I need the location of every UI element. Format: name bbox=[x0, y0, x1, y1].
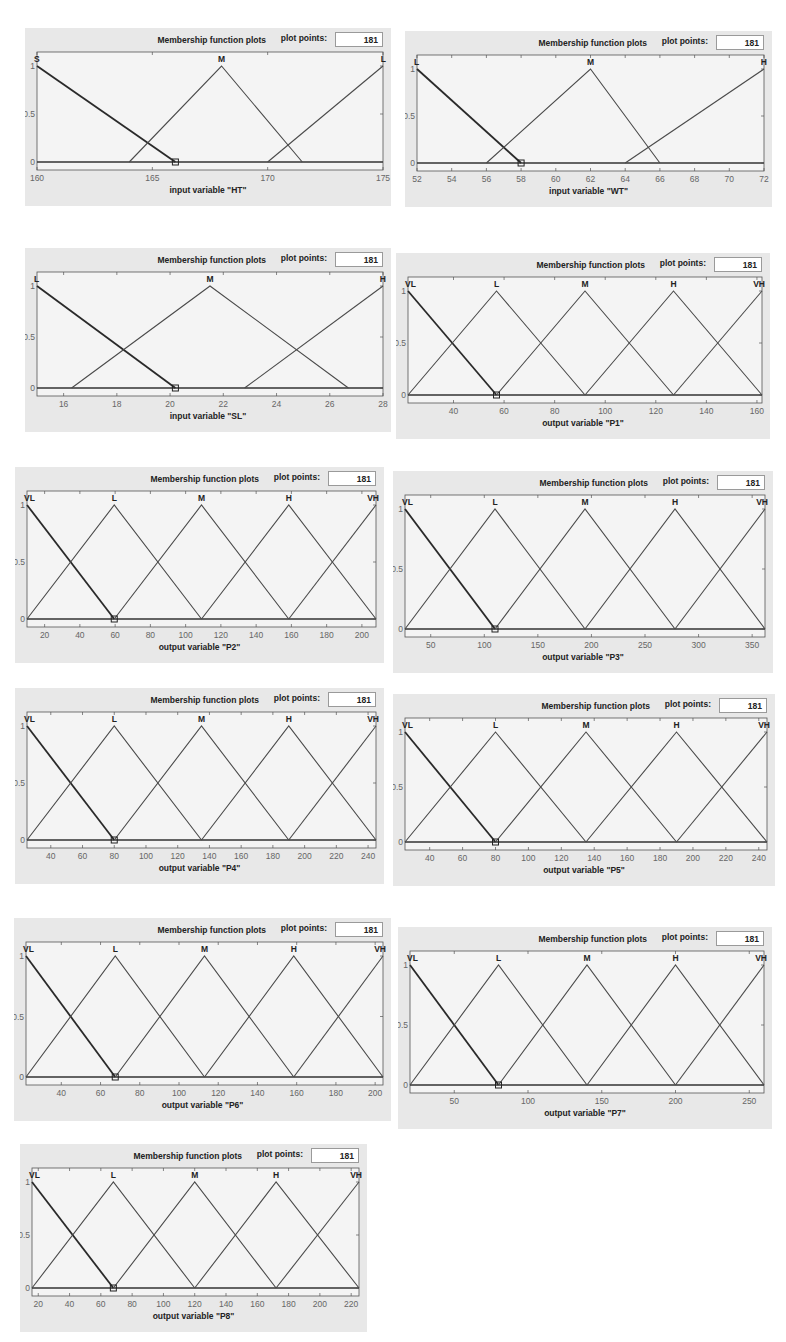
mf-label: VH bbox=[367, 714, 379, 724]
y-tick-label: 0.5 bbox=[15, 778, 25, 788]
mf-label: L bbox=[492, 497, 497, 507]
x-tick-label: 40 bbox=[65, 1299, 75, 1309]
x-tick-label: 120 bbox=[188, 1299, 202, 1309]
mf-label: H bbox=[672, 953, 678, 963]
axis-variable-caption: output variable "P8" bbox=[20, 1311, 367, 1321]
mf-label: VL bbox=[402, 720, 413, 730]
mf-plot-axes[interactable]: 2040608010012014016018020000.51VLLMHVH bbox=[15, 467, 384, 663]
mf-plot-axes[interactable]: 40608010012014016018020022024000.51VLLMH… bbox=[393, 694, 775, 886]
mf-plot-panel-p2: Membership function plotsplot points:181… bbox=[15, 467, 384, 663]
y-tick-label: 0 bbox=[410, 158, 415, 168]
mf-label: VL bbox=[24, 714, 35, 724]
x-tick-label: 100 bbox=[477, 640, 491, 650]
x-tick-label: 16 bbox=[59, 399, 69, 409]
x-tick-label: 240 bbox=[752, 853, 766, 863]
mf-plot-axes[interactable]: 40608010012014016018020000.51VLLMHVH bbox=[14, 918, 391, 1121]
x-tick-label: 140 bbox=[250, 1088, 264, 1098]
x-tick-label: 350 bbox=[745, 640, 759, 650]
mf-label: M bbox=[583, 953, 590, 963]
mf-label: VH bbox=[374, 944, 386, 954]
x-tick-label: 200 bbox=[298, 851, 312, 861]
x-tick-label: 200 bbox=[668, 1096, 682, 1106]
mf-label: VL bbox=[23, 944, 34, 954]
mf-plot-panel-p6: Membership function plotsplot points:181… bbox=[14, 918, 391, 1121]
mf-label: M bbox=[587, 57, 594, 67]
mf-plot-axes[interactable]: 40608010012014016000.51VLLMHVH bbox=[396, 253, 770, 439]
x-tick-label: 100 bbox=[139, 851, 153, 861]
x-tick-label: 40 bbox=[57, 1088, 67, 1098]
x-tick-label: 60 bbox=[96, 1088, 106, 1098]
mf-plot-axes[interactable]: 2040608010012014016018020022000.51VLLMHV… bbox=[20, 1144, 367, 1332]
axis-variable-caption: input variable "WT" bbox=[405, 186, 772, 196]
mf-label: M bbox=[198, 493, 205, 503]
axis-variable-caption: output variable "P2" bbox=[15, 642, 384, 652]
x-tick-label: 60 bbox=[110, 630, 120, 640]
x-tick-label: 50 bbox=[450, 1096, 460, 1106]
x-tick-label: 200 bbox=[368, 1088, 382, 1098]
x-tick-label: 100 bbox=[598, 406, 612, 416]
x-tick-label: 40 bbox=[425, 853, 435, 863]
mf-plot-panel-p3: Membership function plotsplot points:181… bbox=[393, 471, 773, 673]
mf-plot-axes[interactable]: 1618202224262800.51LMH bbox=[25, 248, 391, 432]
y-tick-label: 0 bbox=[20, 614, 25, 624]
x-tick-label: 250 bbox=[742, 1096, 756, 1106]
x-tick-label: 160 bbox=[620, 853, 634, 863]
mf-plot-axes[interactable]: 5010015020025030035000.51VLLMHVH bbox=[393, 471, 773, 673]
x-tick-label: 80 bbox=[135, 1088, 145, 1098]
mf-label: L bbox=[493, 720, 498, 730]
x-tick-label: 20 bbox=[34, 1299, 44, 1309]
mf-plot-panel-ht: Membership function plotsplot points:181… bbox=[25, 28, 391, 206]
x-tick-label: 100 bbox=[172, 1088, 186, 1098]
x-tick-label: 140 bbox=[202, 851, 216, 861]
axis-variable-caption: output variable "P1" bbox=[396, 418, 770, 428]
y-tick-label: 0.5 bbox=[20, 1230, 30, 1240]
x-tick-label: 120 bbox=[214, 630, 228, 640]
x-tick-label: 200 bbox=[355, 630, 369, 640]
y-tick-label: 0 bbox=[398, 624, 403, 634]
x-tick-label: 160 bbox=[250, 1299, 264, 1309]
x-tick-label: 80 bbox=[550, 406, 560, 416]
y-tick-label: 0 bbox=[19, 1072, 24, 1082]
x-tick-label: 80 bbox=[146, 630, 156, 640]
y-tick-label: 0 bbox=[401, 390, 406, 400]
x-tick-label: 180 bbox=[653, 853, 667, 863]
mf-label: VL bbox=[407, 953, 418, 963]
x-tick-label: 40 bbox=[75, 630, 85, 640]
x-tick-label: 180 bbox=[266, 851, 280, 861]
mf-plot-axes[interactable]: 5010015020025000.51VLLMHVH bbox=[398, 927, 772, 1129]
mf-plot-axes[interactable]: 525456586062646668707200.51LMH bbox=[405, 31, 772, 207]
x-tick-label: 140 bbox=[249, 630, 263, 640]
mf-plot-panel-p4: Membership function plotsplot points:181… bbox=[15, 688, 384, 884]
y-tick-label: 0 bbox=[30, 157, 35, 167]
mf-label: L bbox=[112, 493, 117, 503]
x-tick-label: 160 bbox=[30, 173, 44, 183]
x-tick-label: 60 bbox=[458, 853, 468, 863]
x-tick-label: 220 bbox=[344, 1299, 358, 1309]
y-tick-label: 0.5 bbox=[393, 782, 403, 792]
x-tick-label: 160 bbox=[234, 851, 248, 861]
x-tick-label: 180 bbox=[320, 630, 334, 640]
y-tick-label: 0.5 bbox=[405, 111, 415, 121]
mf-plot-axes[interactable]: 40608010012014016018020022024000.51VLLMH… bbox=[15, 688, 384, 884]
mf-plot-axes[interactable]: 16016517017500.51SML bbox=[25, 28, 391, 206]
mf-label: VH bbox=[350, 1170, 362, 1180]
axis-variable-caption: input variable "SL" bbox=[25, 411, 391, 421]
x-tick-label: 40 bbox=[46, 851, 56, 861]
mf-label: L bbox=[34, 274, 39, 284]
mf-plot-panel-sl: Membership function plotsplot points:181… bbox=[25, 248, 391, 432]
axis-variable-caption: output variable "P3" bbox=[393, 652, 773, 662]
y-tick-label: 0.5 bbox=[15, 557, 25, 567]
x-tick-label: 72 bbox=[759, 174, 769, 184]
x-tick-label: 54 bbox=[447, 174, 457, 184]
x-tick-label: 240 bbox=[361, 851, 375, 861]
y-tick-label: 0.5 bbox=[14, 1012, 24, 1022]
x-tick-label: 150 bbox=[531, 640, 545, 650]
x-tick-label: 100 bbox=[521, 1096, 535, 1106]
x-tick-label: 60 bbox=[96, 1299, 106, 1309]
mf-label: H bbox=[670, 279, 676, 289]
x-tick-label: 180 bbox=[329, 1088, 343, 1098]
axis-variable-caption: output variable "P7" bbox=[398, 1108, 772, 1118]
y-tick-label: 0.5 bbox=[25, 109, 35, 119]
mf-label: M bbox=[191, 1170, 198, 1180]
x-tick-label: 62 bbox=[586, 174, 596, 184]
